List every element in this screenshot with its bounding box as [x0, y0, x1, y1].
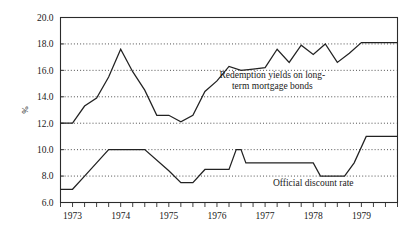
y-axis-tick-labels: 20.018.016.014.012.010.08.06.0	[37, 13, 54, 208]
annotation-redemption-yields-line1: Redemption yields on long-	[219, 70, 325, 80]
ytick-label-14: 14.0	[37, 92, 54, 102]
ytick-label-20: 20.0	[37, 13, 54, 23]
plot-area-border	[61, 18, 398, 203]
line-chart: 20.018.016.014.012.010.08.06.0 197319741…	[0, 0, 413, 241]
series-lines-group	[61, 43, 398, 190]
annotation-redemption-yields-line2: term mortgage bonds	[232, 81, 313, 91]
xtick-label-1978: 1978	[304, 211, 323, 221]
y-axis-title-text: %	[20, 106, 30, 114]
xtick-label-1977: 1977	[256, 211, 275, 221]
plot-frame-group	[61, 18, 398, 203]
xtick-label-1976: 1976	[207, 211, 226, 221]
ytick-label-16: 16.0	[37, 66, 54, 76]
ytick-label-18: 18.0	[37, 39, 54, 49]
series-line-redemption-yields	[61, 43, 398, 124]
xtick-label-1979: 1979	[352, 211, 371, 221]
ytick-label-8: 8.0	[42, 171, 54, 181]
xtick-label-1974: 1974	[111, 211, 130, 221]
ytick-label-10: 10.0	[37, 145, 54, 155]
annotation-official-discount-rate: Official discount rate	[273, 178, 354, 188]
ytick-label-12: 12.0	[37, 119, 54, 129]
x-axis-tick-labels: 1973197419751976197719781979	[63, 211, 371, 221]
chart-container: 20.018.016.014.012.010.08.06.0 197319741…	[0, 0, 413, 241]
gridlines-group	[62, 44, 397, 176]
axis-title-y: %	[20, 106, 30, 114]
xtick-label-1975: 1975	[159, 211, 178, 221]
ytick-label-6: 6.0	[42, 198, 54, 208]
series-annotations-group: Redemption yields on long- term mortgage…	[219, 70, 353, 188]
xtick-label-1973: 1973	[63, 211, 82, 221]
x-axis-ticks-group	[61, 203, 398, 208]
